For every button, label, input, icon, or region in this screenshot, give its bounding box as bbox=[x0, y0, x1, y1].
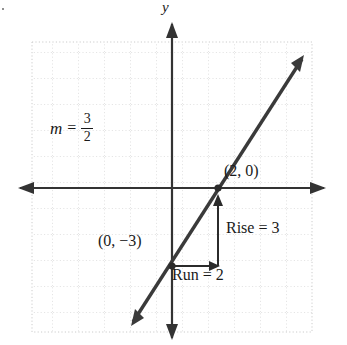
slope-numerator: 3 bbox=[82, 112, 93, 128]
point-label-2-0: (2, 0) bbox=[224, 163, 259, 179]
slope-variable: m bbox=[50, 120, 62, 137]
rise-label: Rise = 3 bbox=[226, 220, 279, 236]
slope-equation-label: m = 3 2 bbox=[50, 112, 93, 144]
slope-equals-sign: = bbox=[67, 120, 76, 136]
y-axis-label: y bbox=[162, 0, 169, 15]
graph-canvas bbox=[0, 0, 347, 345]
point-label-0-neg3: (0, −3) bbox=[98, 233, 142, 249]
slope-denominator: 2 bbox=[82, 129, 93, 145]
line-graph-figure: y m = 3 2 (2, 0) (0, −3) Rise = 3 Run = … bbox=[0, 0, 347, 345]
run-label: Run = 2 bbox=[172, 267, 224, 283]
slope-fraction: 3 2 bbox=[81, 112, 93, 144]
point-2-0-marker bbox=[214, 184, 221, 191]
